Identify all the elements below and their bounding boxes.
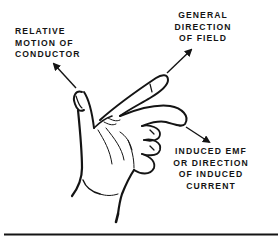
motion-label-line-1: RELATIVE: [15, 26, 81, 38]
motion-label-line-2: MOTION OF: [15, 38, 81, 50]
emf-label-line-4: CURRENT: [169, 181, 253, 193]
field-label-line-2: DIRECTION: [172, 22, 234, 34]
emf-arrow: [186, 127, 209, 142]
field-direction-label: GENERAL DIRECTION OF FIELD: [172, 10, 234, 45]
field-label-line-3: OF FIELD: [172, 33, 234, 45]
induced-emf-label: INDUCED EMF OR DIRECTION OF INDUCED CURR…: [169, 146, 253, 192]
field-arrow: [167, 50, 191, 73]
emf-label-line-2: OR DIRECTION: [169, 158, 253, 170]
field-label-line-1: GENERAL: [172, 10, 234, 22]
relative-motion-label: RELATIVE MOTION OF CONDUCTOR: [15, 26, 81, 61]
emf-label-line-3: OF INDUCED: [169, 169, 253, 181]
motion-label-line-3: CONDUCTOR: [15, 49, 81, 61]
motion-arrow: [54, 64, 76, 88]
emf-label-line-1: INDUCED EMF: [169, 146, 253, 158]
